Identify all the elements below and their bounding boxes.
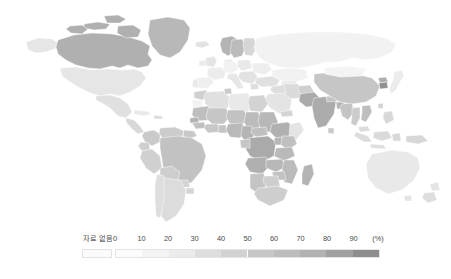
- legend-bar-segment: [326, 250, 352, 257]
- region-taiwan: [378, 103, 383, 109]
- legend-bar-segment: [221, 250, 247, 257]
- legend-tick-50: 50: [236, 234, 260, 244]
- legend: 자료 없음 0102030405060708090 (%): [0, 234, 451, 266]
- legend-bar-segment: [248, 250, 274, 257]
- region-portugal: [192, 79, 198, 88]
- world-map-svg: [0, 8, 451, 233]
- region-south-korea: [379, 82, 388, 89]
- region-ireland: [199, 60, 206, 66]
- legend-tick-10: 10: [130, 234, 154, 244]
- legend-tick-90: 90: [342, 234, 366, 244]
- legend-tick-0: 0: [103, 234, 127, 244]
- legend-tick-30: 30: [183, 234, 207, 244]
- region-senegal: [190, 117, 199, 123]
- legend-bar-segment: [300, 250, 326, 257]
- legend-tick-80: 80: [315, 234, 339, 244]
- legend-unit-label: (%): [366, 234, 390, 244]
- region-uruguay: [186, 188, 194, 194]
- legend-color-bar: [115, 249, 380, 258]
- legend-tick-20: 20: [156, 234, 180, 244]
- legend-tick-70: 70: [289, 234, 313, 244]
- region-tasmania: [404, 195, 412, 201]
- region-indonesia-java: [370, 144, 386, 149]
- choropleth-figure: 자료 없음 0102030405060708090 (%): [0, 0, 451, 279]
- legend-tick-40: 40: [209, 234, 233, 244]
- legend-bar-segment: [142, 250, 168, 257]
- legend-bar-segment: [169, 250, 195, 257]
- region-malaysia: [358, 126, 370, 132]
- legend-nodata-swatch: [82, 249, 112, 258]
- legend-bar-segment: [353, 250, 379, 257]
- region-tunisia: [224, 88, 232, 94]
- legend-bar-segment: [116, 250, 142, 257]
- legend-tick-60: 60: [262, 234, 286, 244]
- region-sri-lanka: [328, 128, 334, 134]
- region-gabon: [240, 139, 250, 148]
- legend-bar-segment: [195, 250, 221, 257]
- region-ghana: [218, 125, 227, 133]
- region-sulawesi: [392, 133, 401, 141]
- world-map: [0, 8, 451, 233]
- legend-bar-segment: [274, 250, 300, 257]
